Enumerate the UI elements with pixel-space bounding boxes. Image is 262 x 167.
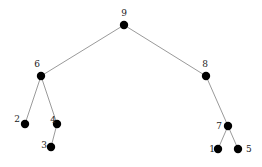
tree-diagram: 968243715	[0, 0, 262, 167]
node-2	[21, 120, 29, 128]
node-label-4: 4	[50, 115, 56, 125]
node-label-9: 9	[121, 8, 127, 18]
node-9	[120, 21, 128, 29]
node-1	[214, 145, 222, 153]
edge-9-8	[124, 25, 206, 76]
edge-9-6	[41, 25, 124, 76]
edges-group	[25, 25, 238, 149]
node-label-6: 6	[34, 59, 40, 69]
node-3	[47, 143, 55, 151]
node-label-8: 8	[202, 59, 208, 69]
edge-6-2	[25, 76, 41, 124]
node-8	[202, 72, 210, 80]
nodes-group	[21, 21, 242, 153]
node-label-7: 7	[216, 121, 222, 131]
node-label-2: 2	[14, 114, 20, 124]
node-label-5: 5	[246, 144, 252, 154]
node-label-1: 1	[209, 144, 215, 154]
labels-group: 968243715	[14, 8, 252, 154]
edge-8-7	[206, 76, 228, 126]
node-label-3: 3	[41, 140, 47, 150]
node-7	[224, 122, 232, 130]
node-6	[37, 72, 45, 80]
node-5	[234, 145, 242, 153]
